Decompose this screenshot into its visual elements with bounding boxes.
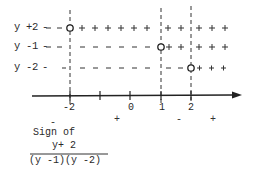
row-label-y-minus-2: y -2 bbox=[14, 61, 38, 73]
row-label-dash: - bbox=[42, 61, 48, 73]
row-y-minus-1-signs bbox=[46, 44, 228, 50]
caption-numerator: y+ 2 bbox=[52, 140, 76, 151]
result-sign-interval-2: + bbox=[114, 114, 120, 125]
row-label-y-minus-1: y -1 bbox=[14, 40, 38, 52]
axis-arrowhead bbox=[232, 92, 242, 99]
result-sign-interval-4: + bbox=[210, 114, 216, 125]
caption-sign-of: Sign of bbox=[33, 127, 75, 138]
caption-denominator: (y -1)(y -2) bbox=[29, 155, 101, 166]
sign-chart-graphics bbox=[0, 0, 255, 175]
row-label-dash: - bbox=[42, 21, 48, 33]
open-circle-2 bbox=[188, 65, 194, 71]
row-label-y-plus-2: y +2 bbox=[14, 21, 38, 33]
row-y-minus-2-signs bbox=[62, 66, 226, 71]
result-sign-interval-3: - bbox=[176, 114, 182, 125]
tick-label-minus-2: -2 bbox=[63, 102, 75, 113]
tick-label-1: 1 bbox=[159, 102, 165, 113]
tick-label-0: 0 bbox=[128, 102, 134, 113]
open-circle-minus-2 bbox=[67, 25, 73, 31]
row-label-dash: - bbox=[42, 40, 48, 52]
open-circle-1 bbox=[158, 44, 164, 50]
tick-label-2: 2 bbox=[188, 102, 194, 113]
number-line-axis bbox=[32, 95, 232, 96]
